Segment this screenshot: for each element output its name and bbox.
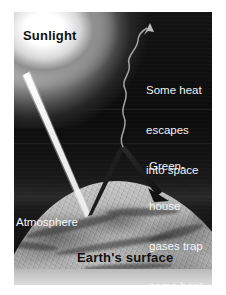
label-atmosphere: Atmosphere — [16, 216, 78, 229]
label-sunlight: Sunlight — [23, 28, 77, 43]
label-greenhouse-line4: some heat — [149, 280, 203, 285]
sun-core-icon — [14, 12, 134, 96]
label-heat-escapes-line1: Some heat — [146, 84, 202, 97]
label-greenhouse-line2: house — [149, 200, 203, 213]
label-earth-surface: Earth's surface — [77, 250, 173, 265]
label-greenhouse-line1: Green- — [149, 160, 203, 173]
figure-page: Sunlight Some heat escapes into space Gr… — [0, 0, 226, 295]
greenhouse-effect-illustration: Sunlight Some heat escapes into space Gr… — [14, 12, 212, 285]
